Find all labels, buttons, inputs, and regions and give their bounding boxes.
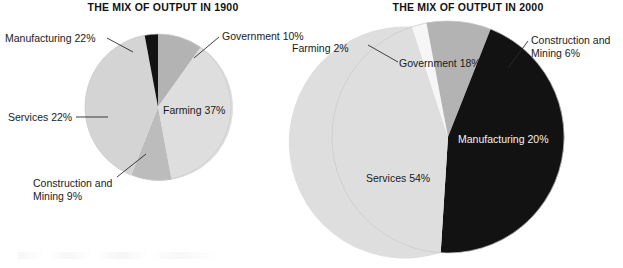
label-1900-farming: Farming 37% xyxy=(163,104,225,117)
label-1900-government: Government 10% xyxy=(222,30,304,43)
label-2000-manufacturing: Manufacturing 20% xyxy=(458,133,548,146)
label-2000-farming: Farming 2% xyxy=(292,42,349,55)
label-2000-construction: Construction and Mining 6% xyxy=(531,34,610,59)
label-1900-construction: Construction and Mining 9% xyxy=(33,177,112,202)
label-2000-construction-line2: Mining 6% xyxy=(531,47,580,59)
label-2000-services: Services 54% xyxy=(366,172,430,185)
label-1900-construction-line2: Mining 9% xyxy=(33,190,82,202)
label-1900-construction-line1: Construction and xyxy=(33,177,112,189)
label-2000-government: Government 18% xyxy=(399,57,481,70)
label-2000-construction-line1: Construction and xyxy=(531,34,610,46)
pie-chart-figure: THE MIX OF OUTPUT IN 1900 THE MIX OF OUT… xyxy=(0,0,623,268)
label-1900-services: Services 22% xyxy=(8,111,72,124)
scan-artifact xyxy=(18,252,218,259)
label-1900-manufacturing: Manufacturing 22% xyxy=(5,32,95,45)
